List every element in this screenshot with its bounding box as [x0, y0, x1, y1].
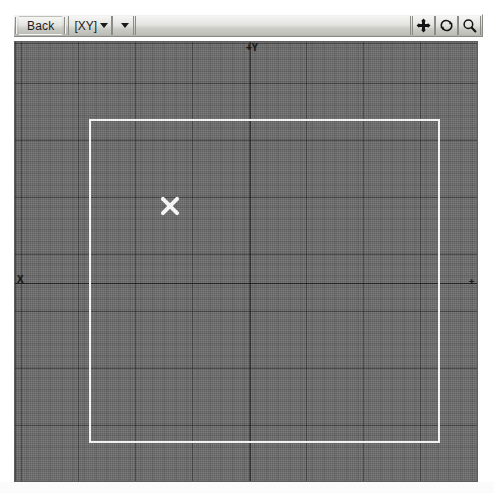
view-orientation-dropdown[interactable]: [XY] [68, 16, 112, 35]
orbit-tool-button[interactable] [435, 16, 458, 35]
shading-mode-dropdown[interactable] [112, 16, 134, 35]
work-plane-boundary-rectangle[interactable] [89, 119, 440, 443]
3d-viewport[interactable]: +Y X + [14, 41, 478, 482]
toolbar-empty-space [135, 16, 411, 35]
chevron-down-icon [121, 23, 129, 28]
chevron-down-icon [100, 23, 108, 28]
window-right-margin [483, 0, 494, 493]
orbit-icon [439, 18, 454, 33]
application-window: Back [XY] [0, 0, 494, 493]
positive-x-axis-label: + [469, 278, 474, 287]
toolbar-separator [15, 17, 17, 34]
pan-icon [416, 18, 431, 33]
view-orientation-label: [XY] [74, 19, 97, 33]
positive-y-axis-label: +Y [246, 43, 258, 53]
window-left-margin [0, 0, 14, 493]
main-toolbar: Back [XY] [11, 14, 483, 37]
window-top-margin [0, 0, 494, 14]
pan-tool-button[interactable] [412, 16, 435, 35]
window-bottom-margin [0, 482, 494, 493]
zoom-icon [462, 18, 477, 33]
x-axis-label: X [17, 275, 23, 285]
toolbar-separator [64, 17, 66, 34]
zoom-tool-button[interactable] [458, 16, 481, 35]
back-button[interactable]: Back [19, 16, 62, 35]
